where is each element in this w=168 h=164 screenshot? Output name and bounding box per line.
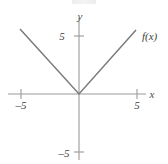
absolute-value-curve bbox=[20, 29, 136, 94]
y-tick-label-negative-5: –5 bbox=[58, 147, 71, 159]
y-axis-label: y bbox=[77, 10, 83, 22]
figure-canvas: x y 5 –5 –5 5 f(x) bbox=[0, 0, 168, 164]
x-axis-label: x bbox=[149, 88, 155, 100]
function-label: f(x) bbox=[142, 30, 158, 43]
x-tick-label-negative-5: –5 bbox=[15, 99, 28, 111]
x-tick-label-positive-5: 5 bbox=[134, 99, 140, 111]
coordinate-plane: x y 5 –5 –5 5 f(x) bbox=[0, 0, 168, 164]
y-tick-label-positive-5: 5 bbox=[59, 30, 65, 42]
